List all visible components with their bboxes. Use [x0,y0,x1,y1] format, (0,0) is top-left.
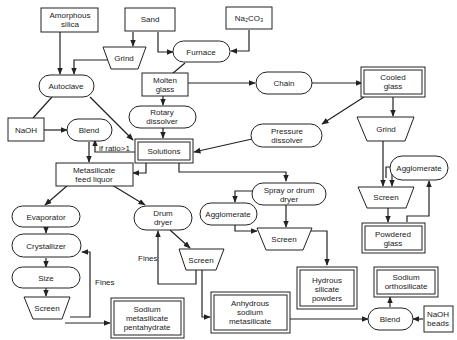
svg-text:Screen: Screen [34,304,59,313]
node-sodium-metasilicate-pentahydrate: Sodium metasilicate pentahydrate [111,298,184,338]
svg-text:silica: silica [61,20,79,29]
node-powdered-glass: Powdered glass [362,223,425,253]
node-screen-drum: Screen [179,249,224,270]
svg-text:Chain: Chain [274,79,295,88]
edge-feed-drumdryer [112,185,145,205]
node-spray-drum-dryer: Spray or drum dryer [252,183,326,205]
node-naoh: NaOH [8,118,44,141]
svg-text:Rotary: Rotary [150,108,174,117]
node-grind-right: Grind [357,117,414,141]
edge-pressure-solutions [194,139,252,152]
node-pressure-dissolver: Pressure dissolver [251,124,322,147]
node-furnace: Furnace [173,41,230,62]
svg-text:Na₂CO₃: Na₂CO₃ [235,14,264,23]
svg-text:Agglomerate: Agglomerate [396,164,442,173]
edge-screen-anhydrous [202,263,210,317]
edge-na2co3-furnace [231,30,249,51]
svg-text:Sand: Sand [141,15,160,24]
node-rotary-dissolver: Rotary dissolver [129,106,196,128]
edge-autoclave-left [33,97,52,118]
svg-text:silicate: silicate [315,285,340,294]
svg-text:Anhydrous: Anhydrous [231,299,269,308]
svg-text:Cooled: Cooled [380,73,405,82]
svg-text:Furnace: Furnace [186,48,216,57]
node-metasilicate-feed: Metasilicate feed liquor [56,163,133,186]
node-naoh-beads: NaOH beads [424,306,453,332]
node-anhydrous-sodium-metasilicate: Anhydrous sodium metasilicate [211,292,290,333]
svg-text:metasilicate: metasilicate [229,317,272,326]
svg-text:Sodium: Sodium [392,273,419,282]
node-na2co3: Na₂CO₃ [226,7,272,29]
edge-screen-hydrous [307,231,327,265]
edge-spray-agglom [235,191,252,202]
svg-text:glass: glass [384,82,403,91]
edge-solutions-feed [133,163,146,173]
svg-text:Powdered: Powdered [375,230,411,239]
svg-text:Metasilicate: Metasilicate [73,166,116,175]
node-cooled-glass: Cooled glass [361,67,425,97]
svg-text:powders: powders [312,294,342,303]
node-molten-glass: Molten glass [142,73,188,96]
svg-text:Solutions: Solutions [148,147,181,156]
edge-label-fines-mid: Fines [138,254,158,263]
svg-text:dissolver: dissolver [146,117,178,126]
svg-text:Hydrous: Hydrous [312,276,342,285]
node-blend-bottom: Blend [368,308,413,330]
svg-text:dryer: dryer [280,195,299,204]
svg-text:sodium: sodium [237,308,263,317]
svg-text:dryer: dryer [154,218,173,227]
svg-text:Drum: Drum [153,209,173,218]
svg-text:beads: beads [427,319,449,328]
edge-grind-autoclave [74,60,110,74]
node-solutions: Solutions [135,139,193,163]
node-blend-top: Blend [67,119,112,141]
node-autoclave: Autoclave [39,75,94,97]
svg-text:Screen: Screen [188,256,213,265]
svg-text:glass: glass [384,239,403,248]
node-sodium-orthosilicate: Sodium orthosilicate [374,267,438,297]
svg-text:Crystallizer: Crystallizer [26,242,66,251]
edge-solutions-spray [179,163,286,181]
svg-text:Grind: Grind [376,125,396,134]
svg-text:Blend: Blend [79,126,99,135]
node-chain: Chain [256,72,312,94]
svg-text:Screen: Screen [271,235,296,244]
node-crystallizer: Crystallizer [12,234,81,257]
edge-sand-furnace [158,32,173,52]
edge-furnace-molten [172,63,185,74]
svg-text:orthosilicate: orthosilicate [385,282,428,291]
node-drum-dryer: Drum dryer [134,206,192,230]
svg-text:Size: Size [38,274,54,283]
svg-text:Autoclave: Autoclave [48,82,84,91]
edge-drum-screen [170,230,190,248]
node-hydrous-silicate: Hydrous silicate powders [297,267,357,309]
svg-text:Blend: Blend [380,315,400,324]
node-agglomerate-mid: Agglomerate [200,203,257,225]
svg-text:Screen: Screen [373,193,398,202]
svg-text:NaOH: NaOH [427,310,449,319]
svg-text:dissolver: dissolver [271,136,303,145]
node-evaporator: Evaporator [12,206,80,227]
svg-text:Agglomerate: Agglomerate [205,210,251,219]
svg-text:Spray or drum: Spray or drum [264,186,315,195]
edge-label-fines-left: Fines [95,278,115,287]
node-size: Size [12,267,80,288]
svg-text:NaOH: NaOH [15,126,37,135]
node-screen-left: Screen [24,297,70,319]
node-sand: Sand [125,8,175,31]
svg-text:glass: glass [156,85,175,94]
node-screen-right: Screen [358,187,414,208]
node-agglomerate-right: Agglomerate [390,156,448,180]
node-grind-top: Grind [103,47,146,69]
svg-text:Amorphous: Amorphous [50,11,91,20]
edge-feed-evaporator [45,185,68,205]
svg-text:feed liquor: feed liquor [75,175,113,184]
flowchart-diagram: Amorphous silica Sand Na₂CO₃ Grind Furna… [0,0,457,340]
node-screen-mid: Screen [257,228,312,250]
svg-text:Grind: Grind [114,54,134,63]
svg-text:Evaporator: Evaporator [26,213,65,222]
node-amorphous-silica: Amorphous silica [41,8,98,32]
svg-text:Sodium: Sodium [133,305,160,314]
edge-label-if-ratio: if ratio>1 [99,144,130,153]
svg-text:pentahydrate: pentahydrate [124,323,171,332]
